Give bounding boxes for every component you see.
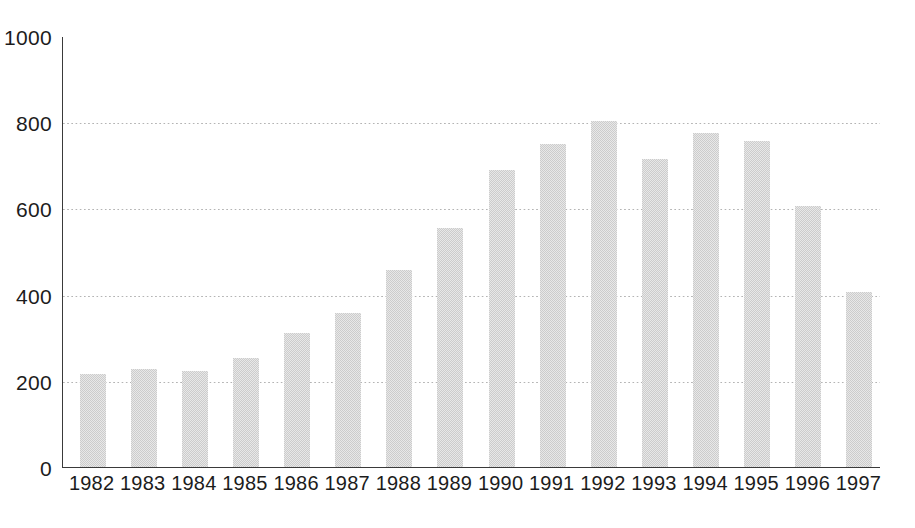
bar-1991	[540, 144, 566, 467]
bar-1982	[80, 374, 106, 467]
bar-1987	[335, 313, 361, 467]
bar-1988	[386, 270, 412, 467]
bar-1983	[131, 369, 157, 467]
bar-1997	[846, 292, 872, 467]
bar-1996	[795, 206, 821, 467]
bar-1984	[182, 371, 208, 467]
y-tick-label-800: 800	[0, 113, 52, 134]
y-tick-label-400: 400	[0, 285, 52, 306]
bar-1994	[693, 133, 719, 467]
x-tick-label-1997: 1997	[828, 472, 888, 494]
y-tick-label-200: 200	[0, 371, 52, 392]
x-axis-labels: 1982198319841985198619871988198919901991…	[62, 472, 880, 512]
y-tick-label-600: 600	[0, 199, 52, 220]
bar-1986	[284, 333, 310, 467]
y-tick-label-0: 0	[0, 458, 52, 479]
y-axis-labels: 02004006008001000	[0, 0, 52, 528]
plot-area	[62, 37, 880, 468]
y-tick-label-1000: 1000	[0, 27, 52, 48]
bar-1993	[642, 159, 668, 467]
bar-1995	[744, 141, 770, 467]
bar-1992	[591, 121, 617, 467]
bar-chart: 02004006008001000 1982198319841985198619…	[0, 0, 915, 528]
bar-1985	[233, 358, 259, 467]
bars-layer	[63, 37, 880, 467]
bar-1989	[437, 228, 463, 467]
bar-1990	[489, 170, 515, 467]
